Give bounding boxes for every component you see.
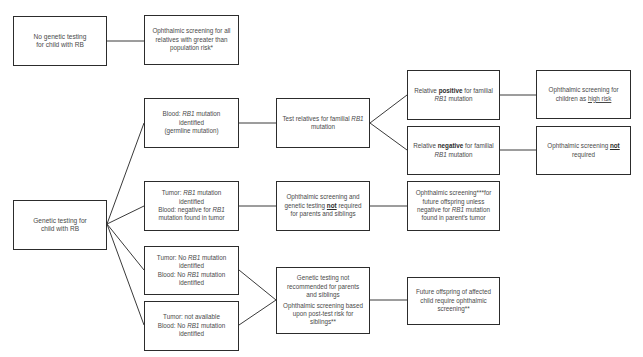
node-text: found in parent's tumor bbox=[421, 214, 485, 222]
text-fragment: Blood: No bbox=[158, 322, 187, 329]
text-fragment: mutation bbox=[200, 254, 226, 261]
node-text: child require ophthalmic bbox=[420, 297, 487, 305]
node-relative-positive: Relative positive for familial RB1 mutat… bbox=[407, 70, 500, 120]
node-text: Ophthalmic screening based bbox=[283, 302, 363, 310]
node-screen-all-relatives: Ophthalmic screening for all relatives w… bbox=[144, 15, 239, 65]
node-text: Ophthalmic screening not bbox=[547, 142, 619, 150]
text-fragment: for familial bbox=[463, 142, 493, 149]
emphasis-negative: negative bbox=[438, 142, 464, 149]
text-fragment: required bbox=[337, 202, 362, 209]
text-fragment: for familial bbox=[462, 87, 492, 94]
node-text: mutation found in tumor bbox=[158, 214, 224, 222]
node-text: recommended for parents bbox=[287, 283, 359, 291]
node-text: child with RB bbox=[41, 225, 79, 233]
node-no-genetic-testing: No genetic testing for child with RB bbox=[13, 16, 107, 66]
node-text: Test relatives for familial RB1 bbox=[282, 115, 363, 123]
edge-test-relatives-to-positive bbox=[370, 95, 407, 123]
node-text: Blood: No RB1 mutation bbox=[158, 322, 226, 330]
edge-genetic-to-tumor-no-rb1 bbox=[107, 224, 144, 270]
node-relative-negative: Relative negative for familial RB1 mutat… bbox=[407, 126, 500, 175]
node-no-screening-required: Ophthalmic screening and genetic testing… bbox=[276, 181, 370, 231]
node-text: Blood: RB1 mutation bbox=[163, 110, 221, 118]
node-text: Tumor: No RB1 mutation bbox=[157, 254, 226, 262]
node-text: identified bbox=[179, 262, 204, 270]
edge-tumor-not-available-to-not-recommended bbox=[239, 300, 276, 325]
node-text: screening** bbox=[437, 305, 469, 313]
node-testing-not-recommended: Genetic testing not recommended for pare… bbox=[276, 267, 370, 334]
node-text: Ophthalmic screening for all bbox=[152, 27, 230, 35]
node-text: genetic testing not required bbox=[284, 202, 361, 210]
node-text: upon post-test risk for bbox=[293, 310, 354, 318]
text-fragment: mutation bbox=[447, 95, 473, 102]
text-fragment: Relative bbox=[413, 142, 438, 149]
node-text: No genetic testing bbox=[34, 33, 87, 41]
text-fragment: Test relatives for familial bbox=[282, 115, 351, 122]
node-text: Tumor: not available bbox=[163, 313, 220, 321]
text-fragment: Blood: bbox=[163, 110, 183, 117]
text-fragment: mutation bbox=[464, 206, 490, 213]
node-text: mutation bbox=[311, 123, 335, 131]
gene-name: RB1 bbox=[213, 206, 225, 213]
text-fragment: negative for bbox=[417, 206, 452, 213]
text-fragment: mutation bbox=[447, 151, 473, 158]
node-text: Blood: negative for RB1 bbox=[158, 206, 225, 214]
edge-tumor-no-rb1-to-not-recommended bbox=[239, 270, 276, 300]
node-text: siblings** bbox=[310, 318, 336, 326]
text-fragment: genetic testing bbox=[284, 202, 326, 209]
node-text: Tumor: RB1 mutation bbox=[162, 189, 222, 197]
gene-name: RB1 bbox=[452, 206, 464, 213]
node-text: children as high risk bbox=[556, 95, 612, 103]
node-text: identified bbox=[179, 279, 204, 287]
node-text: for child with RB bbox=[36, 41, 84, 49]
node-text: Genetic testing for bbox=[33, 217, 87, 225]
text-fragment: Relative bbox=[414, 87, 439, 94]
text-fragment: Blood: No bbox=[158, 271, 187, 278]
emphasis-not: not bbox=[610, 142, 620, 149]
edge-genetic-to-tumor-not-available bbox=[107, 224, 144, 325]
node-test-relatives: Test relatives for familial RB1 mutation bbox=[276, 98, 370, 148]
text-fragment: mutation bbox=[194, 110, 220, 117]
emphasis-not: not bbox=[327, 202, 337, 209]
gene-name: RB1 bbox=[182, 110, 194, 117]
node-text: identified bbox=[179, 330, 204, 338]
text-fragment: Tumor: bbox=[162, 189, 183, 196]
node-text: RB1 mutation bbox=[434, 95, 472, 103]
node-offspring-require-screening: Future offspring of affected child requi… bbox=[407, 277, 500, 325]
node-text: Ophthalmic screening and bbox=[286, 193, 359, 201]
text-fragment: mutation bbox=[195, 189, 221, 196]
node-tumor-no-rb1: Tumor: No RB1 mutation identified Blood:… bbox=[144, 246, 239, 295]
node-text: identified bbox=[179, 198, 204, 206]
node-screen-high-risk: Ophthalmic screening for children as hig… bbox=[536, 70, 631, 119]
node-text: Relative positive for familial bbox=[414, 87, 493, 95]
emphasis-positive: positive bbox=[439, 87, 463, 94]
gene-name: RB1 bbox=[434, 95, 446, 102]
node-screen-not-required: Ophthalmic screening not required bbox=[536, 126, 631, 175]
text-fragment: Blood: negative for bbox=[158, 206, 212, 213]
text-fragment: mutation bbox=[199, 322, 225, 329]
node-genetic-testing: Genetic testing for child with RB bbox=[13, 200, 107, 250]
node-text: required bbox=[572, 151, 595, 159]
gene-name: RB1 bbox=[188, 254, 200, 261]
emphasis-high-risk: high risk bbox=[588, 95, 611, 102]
node-text: and siblings bbox=[306, 291, 339, 299]
node-text: Relative negative for familial bbox=[413, 142, 494, 150]
text-fragment: Ophthalmic screening bbox=[547, 142, 610, 149]
node-text: identified bbox=[179, 119, 204, 127]
node-text: (germline mutation) bbox=[164, 127, 218, 135]
gene-name: RB1 bbox=[187, 271, 199, 278]
node-text: Ophthalmic screening for bbox=[549, 86, 619, 94]
node-text: Genetic testing not bbox=[297, 274, 350, 282]
edge-test-relatives-to-negative bbox=[370, 123, 407, 150]
node-text: Blood: No RB1 mutation bbox=[158, 271, 226, 279]
text-fragment: mutation bbox=[199, 271, 225, 278]
node-tumor-not-available: Tumor: not available Blood: No RB1 mutat… bbox=[144, 301, 239, 351]
node-text: Future offspring of affected bbox=[416, 288, 491, 296]
text-fragment: Tumor: No bbox=[157, 254, 188, 261]
node-text: for parents and siblings bbox=[290, 210, 355, 218]
gene-name: RB1 bbox=[351, 115, 363, 122]
node-offspring-screening-unless: Ophthalmic screening***for future offspr… bbox=[407, 181, 500, 231]
gene-name: RB1 bbox=[183, 189, 195, 196]
node-blood-rb1-identified: Blood: RB1 mutation identified (germline… bbox=[144, 98, 239, 148]
gene-name: RB1 bbox=[187, 322, 199, 329]
node-text: Ophthalmic screening***for bbox=[416, 189, 492, 197]
